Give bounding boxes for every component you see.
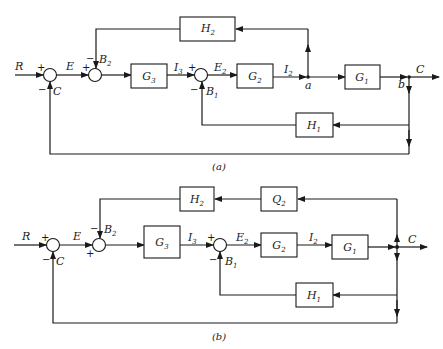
caption-b: (b) <box>212 331 226 342</box>
sign-s1-minus: − <box>38 84 46 95</box>
label-i3-b: I3 <box>187 231 197 246</box>
summing-junction-3-b <box>214 239 227 252</box>
sign-s3-minus: − <box>190 84 198 95</box>
sign-s1-plus-b: + <box>41 232 49 243</box>
label-b2: B2 <box>98 53 112 68</box>
label-i2-b: I2 <box>308 231 318 246</box>
sign-s2-minus: − <box>86 53 94 64</box>
sign-s1-plus: + <box>37 62 45 73</box>
label-e-b: E <box>72 230 81 243</box>
label-b1: B1 <box>205 85 219 100</box>
summing-junction-2-b <box>93 239 106 252</box>
summing-junction-1 <box>44 69 57 82</box>
label-r-b: R <box>21 230 30 243</box>
label-c-output: C <box>416 63 425 76</box>
label-i2: I2 <box>283 63 293 78</box>
sign-s1-minus-b: − <box>42 254 50 265</box>
diagram-b: R + − C E + − B2 I3 + − B1 E2 I2 C G3 G2… <box>14 187 427 342</box>
label-e: E <box>65 60 74 73</box>
label-b2-b: B2 <box>103 223 117 238</box>
diagram-a: R + − C E + − B2 I3 + − B1 E2 I2 a b C G… <box>14 17 439 172</box>
outer-feedback-c-line <box>50 82 409 154</box>
label-b: b <box>398 78 405 91</box>
label-a: a <box>305 79 312 92</box>
sign-s3-minus-b: − <box>209 254 217 265</box>
sign-s3-plus-b: + <box>207 232 215 243</box>
summing-junction-3 <box>195 69 208 82</box>
label-e2-b: E2 <box>235 231 249 246</box>
sign-s2-plus-b: + <box>86 248 94 259</box>
label-r: R <box>14 60 23 73</box>
label-c-feedback: C <box>53 85 62 98</box>
summing-junction-2 <box>89 69 102 82</box>
block-diagram-canvas: R + − C E + − B2 I3 + − B1 E2 I2 a b C G… <box>0 0 443 349</box>
sign-s3-plus: + <box>188 62 196 73</box>
caption-a: (a) <box>212 161 226 172</box>
label-i3: I3 <box>173 61 183 76</box>
label-c-output-b: C <box>408 233 417 246</box>
label-c-feedback-b: C <box>56 255 65 268</box>
label-b1-b: B1 <box>224 255 238 270</box>
sign-s2-minus-b: − <box>90 223 98 234</box>
label-e2: E2 <box>213 61 227 76</box>
